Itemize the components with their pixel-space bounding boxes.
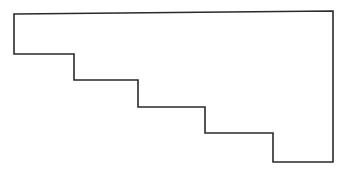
staircase-svg — [0, 0, 350, 172]
staircase-diagram — [0, 0, 350, 172]
staircase-outline — [14, 11, 333, 162]
